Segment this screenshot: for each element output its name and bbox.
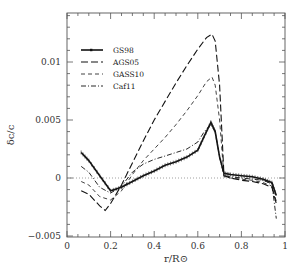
y-tick-label: 0.01	[41, 57, 61, 67]
y-tick-label: 0.005	[35, 115, 61, 125]
legend-label-gass10: GASS10	[113, 70, 144, 79]
x-tick-label: 0	[64, 241, 70, 251]
x-tick-label: 1	[282, 241, 288, 251]
legend-label-gs98: GS98	[113, 46, 134, 55]
x-tick-label: 0.4	[147, 241, 162, 251]
y-tick-label: 0	[55, 173, 61, 183]
x-tick-label: 0.8	[234, 241, 249, 251]
legend-label-caf11: Caf11	[113, 82, 136, 91]
x-tick-label: 0.6	[191, 241, 206, 251]
chart: 00.20.40.60.81−0.00500.0050.01 GS98AGS05…	[0, 0, 300, 276]
x-axis-label: r/R⊙	[164, 253, 188, 264]
x-tick-label: 0.2	[103, 241, 117, 251]
legend-label-ags05: AGS05	[112, 58, 139, 67]
y-tick-label: −0.005	[28, 231, 62, 241]
y-axis-label: δc/c	[5, 124, 16, 145]
